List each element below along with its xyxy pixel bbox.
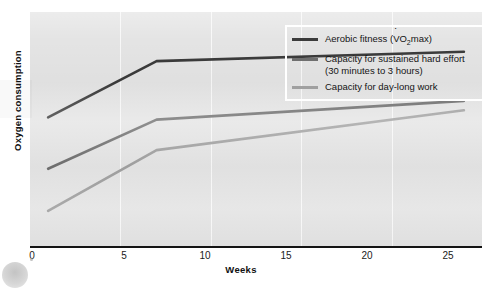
legend-swatch-aerobic: [292, 38, 318, 41]
x-axis-title: Weeks: [0, 264, 482, 275]
line-day-long-work: [48, 110, 464, 211]
legend-label-daylong: Capacity for day-long work: [325, 81, 437, 93]
legend-swatch-daylong: [292, 86, 318, 89]
legend-sustained-line2: (30 minutes to 3 hours): [325, 65, 465, 77]
legend-label-sustained: Capacity for sustained hard effort (30 m…: [325, 53, 465, 76]
line-sustained-hard-effort: [48, 101, 464, 169]
legend-label-aerobic: Aerobic fitness (VO2max): [325, 33, 432, 48]
x-tick-10: 10: [193, 250, 217, 261]
legend-aerobic-o: O: [399, 33, 406, 44]
x-tick-20: 20: [355, 250, 379, 261]
plot-area: Aerobic fitness (VO2max) Capacity for su…: [30, 12, 482, 246]
scan-artifact-speck: [30, 258, 33, 261]
x-tick-5: 5: [112, 250, 136, 261]
legend-item-day-long-work: Capacity for day-long work: [292, 81, 482, 93]
legend-swatch-sustained: [292, 58, 318, 61]
chart-legend: Aerobic fitness (VO2max) Capacity for su…: [285, 25, 482, 101]
x-tick-25: 25: [436, 250, 460, 261]
y-axis-title: Oxygen consumption: [12, 26, 23, 176]
scan-artifact-blob: [2, 262, 28, 288]
legend-sustained-line1: Capacity for sustained hard effort: [325, 53, 465, 65]
legend-aerobic-prefix: Aerobic fitness (: [325, 33, 393, 44]
legend-item-sustained-effort: Capacity for sustained hard effort (30 m…: [292, 53, 482, 76]
legend-daylong-line1: Capacity for day-long work: [325, 81, 437, 93]
x-tick-15: 15: [274, 250, 298, 261]
legend-aerobic-suffix: max): [411, 33, 432, 44]
legend-aerobic-vdot: V: [393, 33, 399, 44]
x-axis-line: [30, 246, 482, 248]
legend-item-aerobic-fitness: Aerobic fitness (VO2max): [292, 33, 482, 48]
